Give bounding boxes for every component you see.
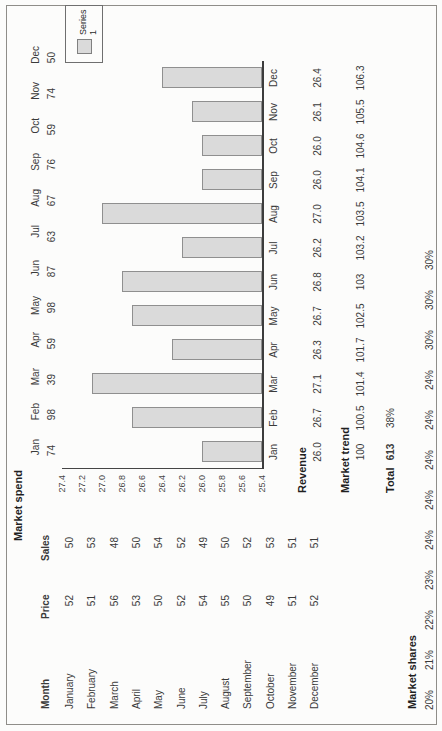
- market-share-value: 22%: [424, 600, 435, 640]
- table-cell-month: January: [64, 673, 75, 709]
- market-share-value: 23%: [424, 560, 435, 600]
- table-cell-month: June: [176, 687, 187, 709]
- market-spend-value: 74: [46, 88, 57, 128]
- table-cell-month: May: [153, 690, 164, 709]
- x-axis-category-label: Sep: [268, 163, 279, 197]
- table-cell-sales: 50: [220, 537, 231, 567]
- revenue-label: Revenue: [296, 447, 308, 493]
- market-spend-month: Apr: [30, 332, 41, 372]
- table-cell-month: February: [86, 669, 97, 709]
- market-spend-value: 50: [46, 52, 57, 92]
- market-trend-value: 106.3: [355, 56, 366, 100]
- bar-nov: [192, 101, 262, 122]
- table-cell-sales: 54: [153, 537, 164, 567]
- y-axis-tick-label: 27.0: [97, 475, 107, 515]
- table-header-sales: Sales: [40, 535, 51, 561]
- table-cell-sales: 49: [198, 537, 209, 567]
- table-cell-sales: 52: [242, 537, 253, 567]
- table-cell-sales: 50: [64, 537, 75, 567]
- table-cell-price: 50: [153, 595, 164, 625]
- market-share-value: 24%: [424, 440, 435, 480]
- market-spend-value: 67: [46, 195, 57, 235]
- market-spend-value: 59: [46, 338, 57, 378]
- legend-swatch-icon: [77, 39, 92, 54]
- bar-may: [132, 305, 262, 326]
- market-spend-month: Nov: [30, 82, 41, 122]
- market-spend-value: 59: [46, 124, 57, 164]
- x-axis-category-label: Mar: [268, 367, 279, 401]
- market-spend-value: 98: [46, 409, 57, 449]
- table-cell-price: 52: [64, 595, 75, 625]
- table-cell-price: 54: [198, 595, 209, 625]
- table-cell-month: October: [265, 673, 276, 709]
- table-cell-price: 50: [242, 595, 253, 625]
- y-axis-tick-label: 26.0: [197, 475, 207, 515]
- x-axis-category-label: Jul: [268, 231, 279, 265]
- market-shares-label: Market shares: [406, 635, 418, 709]
- table-cell-price: 56: [109, 595, 120, 625]
- market-spend-value: 76: [46, 159, 57, 199]
- market-spend-month: Jul: [30, 225, 41, 265]
- table-cell-price: 53: [131, 595, 142, 625]
- x-axis-category-label: Dec: [268, 61, 279, 95]
- market-share-value: 24%: [424, 480, 435, 520]
- table-cell-price: 51: [86, 595, 97, 625]
- bar-dec: [162, 67, 262, 88]
- table-cell-month: March: [109, 681, 120, 709]
- y-axis-tick-label: 25.8: [217, 475, 227, 515]
- market-spend-month: Feb: [30, 403, 41, 443]
- y-axis-tick-label: 26.8: [117, 475, 127, 515]
- table-cell-sales: 53: [86, 537, 97, 567]
- x-axis-category-label: Oct: [268, 129, 279, 163]
- y-axis-tick-label: 25.4: [257, 475, 267, 515]
- market-spend-month: Sep: [30, 153, 41, 193]
- bar-jan: [202, 441, 262, 462]
- market-spend-value: 98: [46, 302, 57, 342]
- table-cell-sales: 51: [287, 537, 298, 567]
- bar-jul: [182, 237, 262, 258]
- table-cell-sales: 53: [265, 537, 276, 567]
- bar-mar: [92, 373, 262, 394]
- x-axis-category-label: Jun: [268, 265, 279, 299]
- y-axis-tick-label: 26.6: [137, 475, 147, 515]
- market-share-value: 30%: [424, 240, 435, 280]
- bar-apr: [172, 339, 262, 360]
- chart-legend: Series 1: [65, 5, 103, 63]
- x-axis-category-label: Jan: [268, 435, 279, 469]
- table-cell-sales: 52: [176, 537, 187, 567]
- table-cell-month: December: [309, 663, 320, 709]
- bar-feb: [132, 407, 262, 428]
- market-spend-month: Oct: [30, 118, 41, 158]
- x-axis-category-label: Feb: [268, 401, 279, 435]
- table-cell-sales: 51: [309, 537, 320, 567]
- bar-oct: [202, 135, 262, 156]
- table-cell-month: April: [131, 689, 142, 709]
- table-cell-sales: 50: [131, 537, 142, 567]
- market-spend-value: 74: [46, 445, 57, 485]
- y-axis-tick-label: 26.2: [177, 475, 187, 515]
- revenue-value: 26.4: [312, 56, 323, 100]
- market-spend-title: Market spend: [12, 470, 24, 541]
- y-axis-tick-label: 25.6: [237, 475, 247, 515]
- x-axis-category-label: Nov: [268, 95, 279, 129]
- market-spend-value: 87: [46, 266, 57, 306]
- table-cell-price: 49: [265, 595, 276, 625]
- table-cell-price: 55: [220, 595, 231, 625]
- table-header-month: Month: [40, 679, 51, 709]
- table-cell-price: 51: [287, 595, 298, 625]
- market-spend-month: Dec: [30, 46, 41, 86]
- market-spend-month: Aug: [30, 189, 41, 229]
- total-share-value: 38%: [385, 398, 396, 438]
- table-cell-month: November: [287, 663, 298, 709]
- legend-series-label: Series 1: [78, 6, 98, 35]
- table-cell-price: 52: [309, 595, 320, 625]
- market-share-value: 30%: [424, 280, 435, 320]
- total-value: 613: [385, 432, 396, 472]
- y-axis-tick-label: 26.4: [157, 475, 167, 515]
- market-spend-month: Mar: [30, 368, 41, 408]
- market-spend-value: 39: [46, 374, 57, 414]
- y-axis-tick-label: 27.4: [57, 475, 67, 515]
- market-share-value: 24%: [424, 520, 435, 560]
- x-axis-category-label: Aug: [268, 197, 279, 231]
- market-share-value: 20%: [424, 680, 435, 720]
